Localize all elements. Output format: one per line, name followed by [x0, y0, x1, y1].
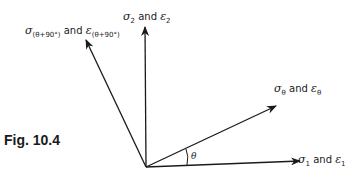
angle-theta-label: θ [191, 151, 196, 161]
stress-symbol: σ [25, 24, 33, 37]
label-principal-1: σ1 and ε1 [298, 154, 346, 168]
axis-theta-arrow [146, 106, 276, 167]
connector: and [313, 154, 332, 165]
axis-2-arrow [145, 27, 146, 167]
axis-theta-plus-90-arrow [86, 40, 146, 167]
stress-symbol: σ [298, 153, 306, 166]
label-theta: σθ and εθ [274, 83, 321, 97]
subscript: θ [317, 89, 321, 97]
axis-1-arrow [146, 161, 300, 167]
figure-caption: Fig. 10.4 [4, 132, 60, 148]
subscript: 1 [306, 160, 310, 168]
subscript: θ [282, 89, 286, 97]
subscript: (θ+90°) [33, 31, 61, 39]
subscript: (θ+90°) [92, 31, 120, 39]
connector: and [138, 11, 157, 22]
angle-arc [186, 149, 188, 165]
connector: and [289, 83, 308, 94]
subscript: 2 [166, 17, 170, 25]
subscript: 2 [131, 17, 135, 25]
stress-symbol: σ [274, 82, 282, 95]
subscript: 1 [341, 160, 345, 168]
stress-symbol: σ [123, 10, 131, 23]
label-theta-plus-90: σ(θ+90°) and ε(θ+90°) [25, 25, 120, 39]
label-principal-2: σ2 and ε2 [123, 11, 171, 25]
connector: and [64, 25, 83, 36]
